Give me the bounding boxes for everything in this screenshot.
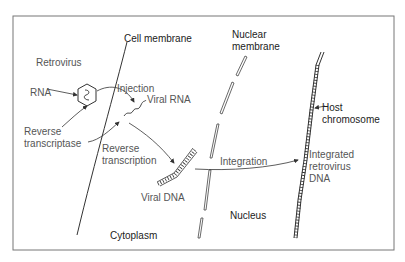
label-integration: Integration xyxy=(220,156,267,167)
label-reverse-transcription-2: transcription xyxy=(102,155,156,166)
reverse-transcriptase-arrow-1 xyxy=(62,106,87,127)
label-host-chromosome-2: chromosome xyxy=(322,114,380,125)
host-chromosome xyxy=(294,52,324,238)
label-cell-membrane: Cell membrane xyxy=(124,33,192,44)
viral-dna-ladder xyxy=(157,148,197,186)
retrovirus-diagram: Cell membrane Nuclear membrane Retroviru… xyxy=(0,0,405,262)
label-integrated-2: retrovirus xyxy=(309,161,351,172)
label-reverse-transcription-1: Reverse xyxy=(102,143,140,154)
label-retrovirus: Retrovirus xyxy=(36,57,82,68)
label-injection: Injection xyxy=(117,83,154,94)
label-host-chromosome-1: Host xyxy=(322,102,343,113)
label-reverse-transcriptase-2: transcriptase xyxy=(24,138,82,149)
label-rna: RNA xyxy=(30,87,51,98)
label-nuclear-membrane-1: Nuclear xyxy=(232,29,267,40)
rna-arrow xyxy=(47,89,77,95)
label-nucleus: Nucleus xyxy=(230,210,266,221)
label-reverse-transcriptase-1: Reverse xyxy=(24,126,62,137)
label-integrated-3: DNA xyxy=(309,173,330,184)
label-nuclear-membrane-2: membrane xyxy=(232,41,280,52)
diagram-frame xyxy=(13,16,394,250)
label-cytoplasm: Cytoplasm xyxy=(110,230,157,241)
label-viral-rna: Viral RNA xyxy=(147,94,191,105)
viral-rna-squiggle xyxy=(124,100,146,116)
retrovirus-capsid-icon xyxy=(78,84,96,106)
cell-membrane-line xyxy=(77,42,127,235)
label-viral-dna: Viral DNA xyxy=(141,192,185,203)
label-integrated-1: Integrated xyxy=(309,149,354,160)
